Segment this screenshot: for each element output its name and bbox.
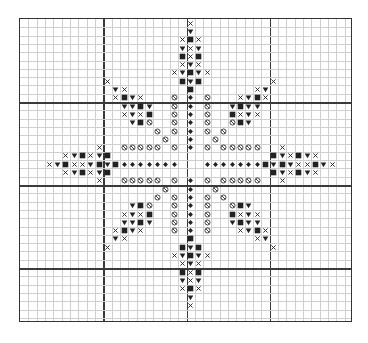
circle-slash-icon — [128, 144, 136, 152]
cross-stitch-x-icon — [45, 160, 53, 168]
diamond-solid-icon — [187, 202, 195, 210]
cross-stitch-x-icon — [187, 52, 195, 60]
triangle-down-solid-icon — [195, 69, 203, 77]
cross-stitch-x-icon — [328, 160, 336, 168]
circle-slash-icon — [170, 119, 178, 127]
square-solid-icon — [137, 102, 145, 110]
square-solid-icon — [120, 227, 128, 235]
triangle-down-solid-icon — [187, 260, 195, 268]
diamond-solid-icon — [187, 193, 195, 201]
circle-slash-icon — [203, 127, 211, 135]
triangle-down-solid-icon — [303, 152, 311, 160]
circle-slash-icon — [170, 218, 178, 226]
circle-slash-icon — [162, 135, 170, 143]
triangle-down-solid-icon — [128, 202, 136, 210]
circle-slash-icon — [203, 227, 211, 235]
square-solid-icon — [103, 152, 111, 160]
circle-slash-icon — [228, 202, 236, 210]
diamond-solid-icon — [128, 160, 136, 168]
diamond-solid-icon — [228, 160, 236, 168]
cross-stitch-x-icon — [236, 210, 244, 218]
square-solid-icon — [236, 218, 244, 226]
cross-stitch-x-icon — [195, 36, 203, 44]
circle-slash-icon — [253, 177, 261, 185]
grid-line — [20, 27, 351, 28]
circle-slash-icon — [153, 144, 161, 152]
circle-slash-icon — [120, 177, 128, 185]
cross-stitch-x-icon — [137, 94, 145, 102]
major-grid-line — [20, 102, 351, 104]
triangle-down-solid-icon — [95, 152, 103, 160]
grid-line — [20, 318, 351, 319]
diamond-solid-icon — [187, 127, 195, 135]
square-solid-icon — [178, 77, 186, 85]
circle-slash-icon — [203, 193, 211, 201]
triangle-down-solid-icon — [195, 44, 203, 52]
triangle-down-solid-icon — [178, 44, 186, 52]
square-solid-icon — [187, 251, 195, 259]
square-solid-icon — [120, 94, 128, 102]
diamond-solid-icon — [187, 110, 195, 118]
grid-line — [20, 119, 351, 120]
triangle-down-solid-icon — [145, 102, 153, 110]
square-solid-icon — [195, 268, 203, 276]
square-solid-icon — [187, 235, 195, 243]
triangle-down-solid-icon — [261, 235, 269, 243]
circle-slash-icon — [170, 94, 178, 102]
cross-stitch-x-icon — [278, 177, 286, 185]
circle-slash-icon — [170, 202, 178, 210]
cross-stitch-x-icon — [62, 152, 70, 160]
diamond-solid-icon — [153, 160, 161, 168]
square-solid-icon — [178, 243, 186, 251]
cross-stitch-x-icon — [103, 243, 111, 251]
circle-slash-icon — [203, 210, 211, 218]
triangle-down-solid-icon — [195, 251, 203, 259]
square-solid-icon — [195, 77, 203, 85]
circle-slash-icon — [203, 202, 211, 210]
square-solid-icon — [278, 160, 286, 168]
cross-stitch-x-icon — [303, 160, 311, 168]
circle-slash-icon — [153, 193, 161, 201]
triangle-down-solid-icon — [95, 168, 103, 176]
grid-line — [20, 110, 351, 111]
triangle-down-solid-icon — [87, 160, 95, 168]
triangle-down-solid-icon — [178, 251, 186, 259]
cross-stitch-x-icon — [203, 69, 211, 77]
triangle-down-solid-icon — [286, 160, 294, 168]
cross-stitch-x-icon — [120, 210, 128, 218]
diamond-solid-icon — [187, 185, 195, 193]
cross-stitch-x-icon — [253, 85, 261, 93]
triangle-down-solid-icon — [145, 218, 153, 226]
triangle-down-solid-icon — [270, 160, 278, 168]
square-solid-icon — [195, 243, 203, 251]
triangle-down-solid-icon — [112, 85, 120, 93]
triangle-down-solid-icon — [245, 202, 253, 210]
square-solid-icon — [112, 160, 120, 168]
circle-slash-icon — [162, 185, 170, 193]
triangle-down-solid-icon — [70, 168, 78, 176]
diamond-solid-icon — [187, 94, 195, 102]
diamond-solid-icon — [236, 160, 244, 168]
circle-slash-icon — [228, 144, 236, 152]
triangle-down-solid-icon — [228, 102, 236, 110]
circle-slash-icon — [203, 218, 211, 226]
circle-slash-icon — [245, 144, 253, 152]
circle-slash-icon — [145, 202, 153, 210]
cross-stitch-x-icon — [95, 177, 103, 185]
square-solid-icon — [137, 202, 145, 210]
triangle-down-solid-icon — [245, 102, 253, 110]
grid-line — [20, 235, 351, 236]
grid-line — [20, 135, 351, 136]
triangle-down-solid-icon — [187, 293, 195, 301]
triangle-down-solid-icon — [128, 102, 136, 110]
triangle-down-solid-icon — [253, 102, 261, 110]
circle-slash-icon — [236, 144, 244, 152]
cross-stitch-x-icon — [78, 160, 86, 168]
diamond-solid-icon — [187, 144, 195, 152]
cross-stitch-x-icon — [178, 61, 186, 69]
triangle-down-solid-icon — [245, 94, 253, 102]
cross-stitch-x-icon — [187, 268, 195, 276]
grid-line — [20, 127, 351, 128]
cross-stitch-x-icon — [295, 160, 303, 168]
cross-stitch-x-icon — [311, 168, 319, 176]
